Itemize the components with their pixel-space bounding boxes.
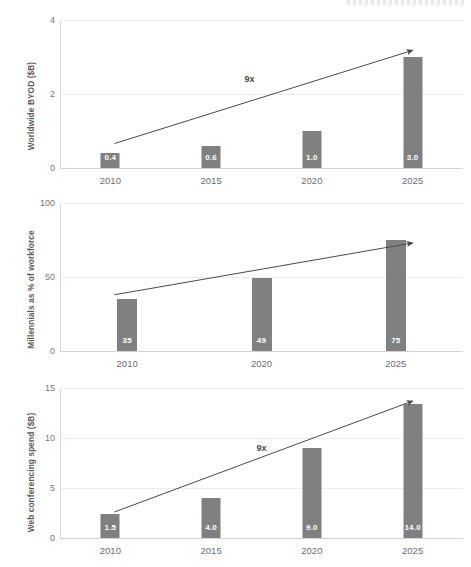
x-axis-tick-label: 2015 — [201, 545, 222, 556]
bar-value-label: 4.0 — [205, 523, 217, 532]
y-axis-tick-label: 5 — [50, 483, 55, 493]
growth-multiple-annotation: 9x — [244, 74, 254, 84]
bar: 1.5 — [101, 514, 120, 538]
bar-value-label: 3.0 — [407, 153, 419, 162]
chart-panel-byod: Worldwide BYOD ($B) 0240.420100.620151.0… — [0, 8, 471, 193]
bar: 0.6 — [202, 146, 221, 168]
gridline — [60, 203, 463, 204]
x-axis-tick-label: 2020 — [301, 545, 322, 556]
plot-area: 050100352010492020752025 — [60, 203, 463, 351]
three-panel-bar-chart-figure: Worldwide BYOD ($B) 0240.420100.620151.0… — [0, 0, 471, 567]
gridline — [60, 538, 463, 539]
plot-area: 0240.420100.620151.020203.020259x — [60, 20, 463, 168]
x-axis-tick-label: 2025 — [385, 358, 406, 369]
y-axis-tick-label: 4 — [50, 15, 55, 25]
y-axis-tick-label: 10 — [45, 433, 55, 443]
bar: 75 — [386, 240, 406, 351]
plot-area: 0510151.520104.020159.0202014.020259x — [60, 388, 463, 538]
y-axis-label: Millennials as % of workforce — [24, 212, 38, 367]
bar-value-label: 35 — [123, 336, 132, 345]
y-axis-tick-label: 0 — [50, 346, 55, 356]
gridline — [60, 20, 463, 21]
y-axis-tick-label: 100 — [40, 198, 55, 208]
y-axis-spine — [60, 388, 61, 538]
bar: 49 — [252, 278, 272, 351]
bar: 4.0 — [202, 498, 221, 538]
chart-panel-millennials: Millennials as % of workforce 0501003520… — [0, 193, 471, 378]
x-axis-tick-label: 2025 — [402, 545, 423, 556]
bar-value-label: 9.0 — [306, 523, 318, 532]
bar-value-label: 0.4 — [105, 153, 117, 162]
bar: 14.0 — [403, 404, 422, 538]
chart-panel-web-conferencing: Web conferencing spend ($B) 0510151.5201… — [0, 378, 471, 567]
x-axis-tick-label: 2015 — [201, 175, 222, 186]
y-axis-tick-label: 50 — [45, 272, 55, 282]
growth-multiple-annotation: 9x — [256, 443, 266, 453]
gridline — [60, 168, 463, 169]
y-axis-tick-label: 0 — [50, 533, 55, 543]
x-axis-tick-label: 2025 — [402, 175, 423, 186]
bar: 35 — [117, 299, 137, 351]
x-axis-tick-label: 2010 — [117, 358, 138, 369]
bar-value-label: 75 — [391, 336, 400, 345]
gridline — [60, 388, 463, 389]
x-axis-tick-label: 2020 — [251, 358, 272, 369]
bar: 9.0 — [302, 448, 321, 538]
x-axis-tick-label: 2010 — [100, 545, 121, 556]
y-axis-tick-label: 2 — [50, 89, 55, 99]
bar-value-label: 0.6 — [205, 153, 217, 162]
gridline — [60, 351, 463, 352]
bar-value-label: 1.0 — [306, 153, 318, 162]
y-axis-label: Web conferencing spend ($B) — [24, 395, 38, 550]
bar-value-label: 49 — [257, 336, 266, 345]
bar-value-label: 14.0 — [404, 523, 420, 532]
bar: 1.0 — [302, 131, 321, 168]
bar-value-label: 1.5 — [105, 523, 117, 532]
y-axis-tick-label: 0 — [50, 163, 55, 173]
bar: 0.4 — [101, 153, 120, 168]
x-axis-tick-label: 2010 — [100, 175, 121, 186]
y-axis-tick-label: 15 — [45, 383, 55, 393]
y-axis-label: Worldwide BYOD ($B) — [24, 26, 38, 186]
x-axis-tick-label: 2020 — [301, 175, 322, 186]
bar: 3.0 — [403, 57, 422, 168]
